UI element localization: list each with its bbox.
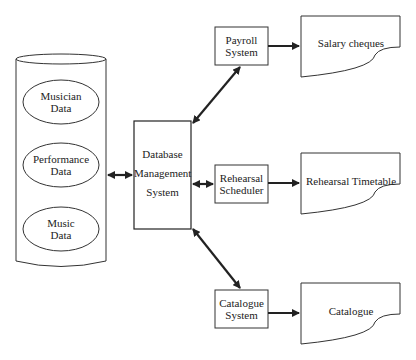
dbms-line3: System [134, 183, 191, 202]
scheduler-line2: Scheduler [215, 184, 268, 196]
music-data-line2: Data [23, 229, 99, 241]
dbms-label: Database Management System [134, 145, 191, 202]
musician-data-line2: Data [23, 102, 99, 114]
catalogue-label: Catalogue [301, 305, 401, 317]
payroll-system-label: Payroll System [215, 34, 268, 58]
scheduler-line1: Rehearsal [215, 172, 268, 184]
payroll-line2: System [215, 46, 268, 58]
catalogue-system-line2: System [215, 309, 268, 321]
music-data-label: Music Data [23, 217, 99, 241]
rehearsal-timetable-label: Rehearsal Timetable [301, 175, 401, 187]
catalogue-system-line1: Catalogue [215, 297, 268, 309]
catalogue-system-label: Catalogue System [215, 297, 268, 321]
musician-data-label: Musician Data [23, 90, 99, 114]
payroll-line1: Payroll [215, 34, 268, 46]
musician-data-line1: Musician [23, 90, 99, 102]
dbms-line2: Management [134, 164, 191, 183]
dbms-line1: Database [134, 145, 191, 164]
performance-data-label: Performance Data [23, 153, 99, 177]
performance-data-line1: Performance [23, 153, 99, 165]
dbms-catalogue-arrow [193, 229, 240, 288]
dbms-payroll-arrow [193, 67, 240, 123]
rehearsal-scheduler-label: Rehearsal Scheduler [215, 172, 268, 196]
salary-cheques-label: Salary cheques [301, 37, 401, 49]
performance-data-line2: Data [23, 165, 99, 177]
music-data-line1: Music [23, 217, 99, 229]
